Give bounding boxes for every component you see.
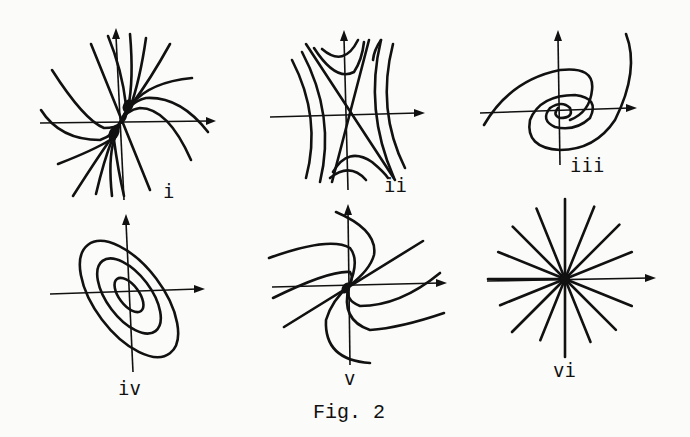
x-axis bbox=[50, 285, 205, 294]
panel-vi: vi bbox=[487, 199, 656, 381]
star-ray bbox=[565, 279, 616, 330]
x-axis-arrow-icon bbox=[206, 117, 216, 125]
y-axis-arrow-icon bbox=[344, 204, 352, 215]
equilibrium-point bbox=[560, 274, 570, 284]
trajectories bbox=[41, 34, 208, 196]
y-axis-arrow-icon bbox=[122, 214, 130, 225]
panel-label: vi bbox=[553, 359, 576, 381]
panel-iv: iv bbox=[50, 214, 205, 399]
panel-label: i bbox=[163, 180, 174, 202]
star-ray bbox=[513, 227, 565, 279]
star-ray bbox=[565, 225, 619, 279]
panel-label: ii bbox=[384, 174, 407, 196]
x-axis-arrow-icon bbox=[414, 109, 425, 117]
x-axis-arrow-icon bbox=[194, 285, 205, 293]
star-ray bbox=[512, 279, 565, 332]
panel-v: v bbox=[269, 204, 447, 389]
figure-caption: Fig. 2 bbox=[313, 401, 385, 424]
panel-iii: iii bbox=[480, 30, 637, 176]
x-axis-arrow-icon bbox=[645, 274, 656, 282]
figure-canvas: i ii bbox=[0, 0, 690, 437]
panel-ii: ii bbox=[270, 30, 425, 196]
y-axis-arrow-icon bbox=[112, 28, 120, 39]
x-axis bbox=[270, 109, 425, 117]
panel-label: iv bbox=[118, 377, 141, 399]
panel-i: i bbox=[40, 28, 216, 202]
x-axis bbox=[40, 117, 216, 125]
trajectories bbox=[292, 40, 405, 182]
panel-label: v bbox=[344, 367, 355, 389]
trajectories bbox=[269, 212, 444, 363]
y-axis-arrow-icon bbox=[340, 30, 348, 41]
panel-label: iii bbox=[570, 154, 604, 176]
x-axis-arrow-icon bbox=[626, 104, 637, 112]
y-axis-arrow-icon bbox=[554, 30, 562, 41]
x-axis-arrow-icon bbox=[436, 279, 447, 287]
